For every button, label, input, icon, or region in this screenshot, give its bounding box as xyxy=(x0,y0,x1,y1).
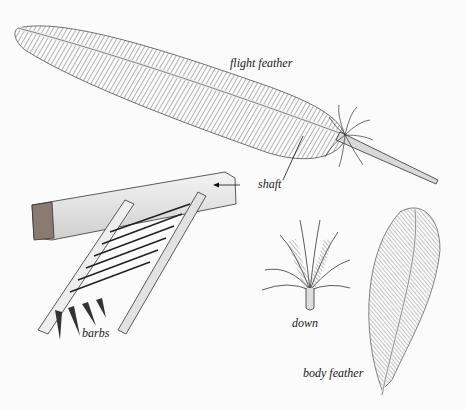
shaft-label: shaft xyxy=(258,177,281,192)
shaft-barbs-drawing xyxy=(32,172,240,340)
body-feather-drawing xyxy=(369,208,440,395)
down-feather-drawing xyxy=(262,220,350,310)
flight-feather-drawing xyxy=(15,26,438,184)
flight-feather-label: flight feather xyxy=(230,56,292,71)
feather-diagram: flight feather shaft barbs down body fea… xyxy=(0,0,465,409)
barbs-label: barbs xyxy=(82,326,109,341)
body-feather-label: body feather xyxy=(303,366,363,381)
down-label: down xyxy=(292,316,318,331)
